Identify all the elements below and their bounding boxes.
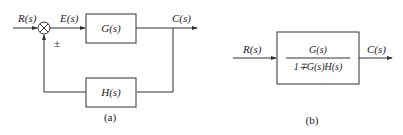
summing-junction-icon [38, 22, 50, 34]
error-label: E(s) [59, 12, 79, 25]
feedback-block-label: H(s) [100, 86, 121, 99]
diagram-a: R(s) ± E(s) G(s) C(s) H(s) (a) [13, 12, 197, 124]
feedback-branch-right [137, 28, 173, 92]
input-label-a: R(s) [17, 12, 37, 25]
output-label-b: C(s) [367, 43, 386, 56]
diagram-b: R(s) G(s) 1∓G(s)H(s) C(s) (b) [233, 32, 392, 127]
block-diagram-canvas: R(s) ± E(s) G(s) C(s) H(s) (a) R(s) G(s)… [0, 0, 403, 135]
numerator: G(s) [309, 44, 327, 56]
output-label-a: C(s) [172, 12, 191, 25]
denominator: 1∓G(s)H(s) [294, 61, 343, 73]
input-label-b: R(s) [242, 43, 262, 56]
forward-block-label: G(s) [101, 22, 121, 35]
sign-label: ± [54, 37, 60, 49]
caption-b: (b) [306, 114, 319, 127]
feedback-branch-left [44, 35, 86, 92]
caption-a: (a) [104, 111, 117, 124]
